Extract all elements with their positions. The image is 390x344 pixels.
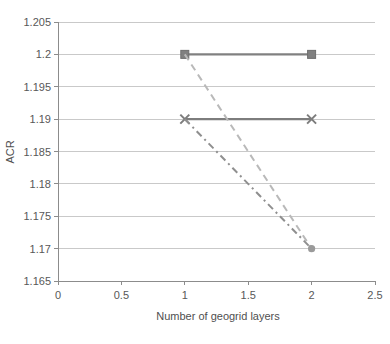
y-tick-label: 1.185 (23, 146, 51, 158)
y-tick-label: 1.19 (30, 113, 51, 125)
x-tick-label: 2.5 (367, 289, 382, 301)
data-point-marker-square (308, 50, 316, 58)
y-tick-label: 1.165 (23, 275, 51, 287)
y-tick-label: 1.205 (23, 16, 51, 28)
y-axis-label: ACR (4, 140, 16, 163)
y-tick-label: 1.18 (30, 178, 51, 190)
x-tick-label: 1.5 (241, 289, 256, 301)
y-axis-ticks: 1.1651.171.1751.181.1851.191.1951.21.205 (23, 16, 58, 287)
y-tick-label: 1.17 (30, 243, 51, 255)
series-series-1-solid-square (181, 50, 316, 58)
series-series-2-solid-cross (180, 115, 316, 124)
x-tick-label: 0 (55, 289, 61, 301)
convergence-point-marker (308, 245, 315, 252)
x-axis-ticks: 00.511.522.5 (55, 281, 383, 301)
chart-container: 1.1651.171.1751.181.1851.191.1951.21.205… (0, 0, 390, 344)
x-tick-label: 1 (182, 289, 188, 301)
y-tick-label: 1.195 (23, 81, 51, 93)
x-tick-label: 0.5 (114, 289, 129, 301)
y-tick-label: 1.2 (36, 48, 51, 60)
x-tick-label: 2 (309, 289, 315, 301)
chart-svg: 1.1651.171.1751.181.1851.191.1951.21.205… (0, 0, 390, 344)
x-axis-label: Number of geogrid layers (156, 310, 280, 322)
y-tick-label: 1.175 (23, 210, 51, 222)
